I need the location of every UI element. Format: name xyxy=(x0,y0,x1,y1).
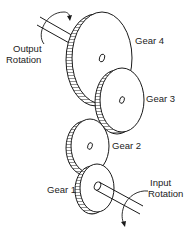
gear-2-label: Gear 2 xyxy=(112,140,141,151)
gear-3 xyxy=(95,68,144,134)
output-rotation-label-line2: Rotation xyxy=(6,54,41,65)
output-rotation-label-line1: Output xyxy=(13,43,42,54)
gear-1-label: Gear 1 xyxy=(47,184,76,195)
gear-4-label: Gear 4 xyxy=(135,35,164,46)
gear-3-label: Gear 3 xyxy=(146,93,175,104)
input-rotation-label-line1: Input xyxy=(150,177,171,188)
input-rotation-label-line2: Rotation xyxy=(148,188,183,199)
output-rotation-arrow-icon xyxy=(41,12,72,44)
gear-train-diagram: Gear 4 Gear 3 Gear 2 Gear 1 Output Rotat… xyxy=(0,0,190,238)
